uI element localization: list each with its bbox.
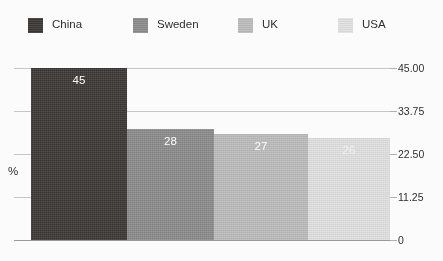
tick-stub-45 — [390, 68, 397, 69]
bar-value-sweden: 28 — [127, 136, 214, 148]
legend-label-china: China — [52, 19, 82, 31]
legend-swatch-sweden-icon — [133, 18, 148, 33]
legend-item-uk[interactable]: UK — [238, 14, 278, 36]
bar-value-uk: 27 — [214, 141, 308, 153]
chart-legend: China Sweden UK USA — [0, 14, 443, 38]
chart-plot-area: 45.00 33.75 22.50 11.25 0 % 45 28 27 26 — [0, 0, 443, 261]
tick-stub-22-50 — [390, 154, 397, 155]
legend-label-sweden: Sweden — [157, 19, 199, 31]
ytick-label-11-25: 11.25 — [398, 192, 424, 203]
legend-item-sweden[interactable]: Sweden — [133, 14, 199, 36]
ytick-label-22-50: 22.50 — [398, 149, 424, 160]
legend-label-uk: UK — [262, 19, 278, 31]
chart-page: China Sweden UK USA 45.00 33.75 — [0, 0, 443, 261]
legend-swatch-china-icon — [28, 18, 43, 33]
legend-swatch-usa-icon — [338, 18, 353, 33]
ytick-label-45: 45.00 — [398, 63, 424, 74]
legend-item-usa[interactable]: USA — [338, 14, 386, 36]
tick-stub-33-75 — [390, 111, 397, 112]
legend-label-usa: USA — [362, 19, 386, 31]
ytick-label-0: 0 — [398, 235, 404, 246]
bar-value-china: 45 — [31, 75, 127, 87]
legend-swatch-uk-icon — [238, 18, 253, 33]
bar-china[interactable] — [31, 68, 127, 240]
legend-item-china[interactable]: China — [28, 14, 82, 36]
axis-baseline — [14, 240, 396, 241]
tick-stub-0 — [390, 240, 397, 241]
y-axis-label: % — [8, 166, 18, 178]
ytick-label-33-75: 33.75 — [398, 106, 424, 117]
bar-value-usa: 26 — [308, 145, 390, 157]
tick-stub-11-25 — [390, 197, 397, 198]
